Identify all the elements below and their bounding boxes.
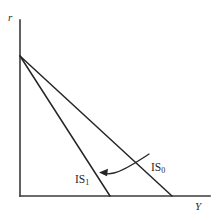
figure-canvas [0,0,216,221]
shift-arrow-head-icon [99,169,108,176]
is0-curve-label: IS0 [151,162,165,174]
is1-label-subscript: 1 [85,178,89,187]
is1-label-text: IS [75,173,85,185]
x-axis-label: Y [195,201,201,212]
is0-label-subscript: 0 [161,166,165,175]
shift-arrow-curve [104,154,149,174]
y-axis-label: r [8,12,12,23]
is-curve-shift-figure: r Y IS0 IS1 [0,0,216,221]
is1-curve-label: IS1 [75,174,89,186]
is0-label-text: IS [151,161,161,173]
